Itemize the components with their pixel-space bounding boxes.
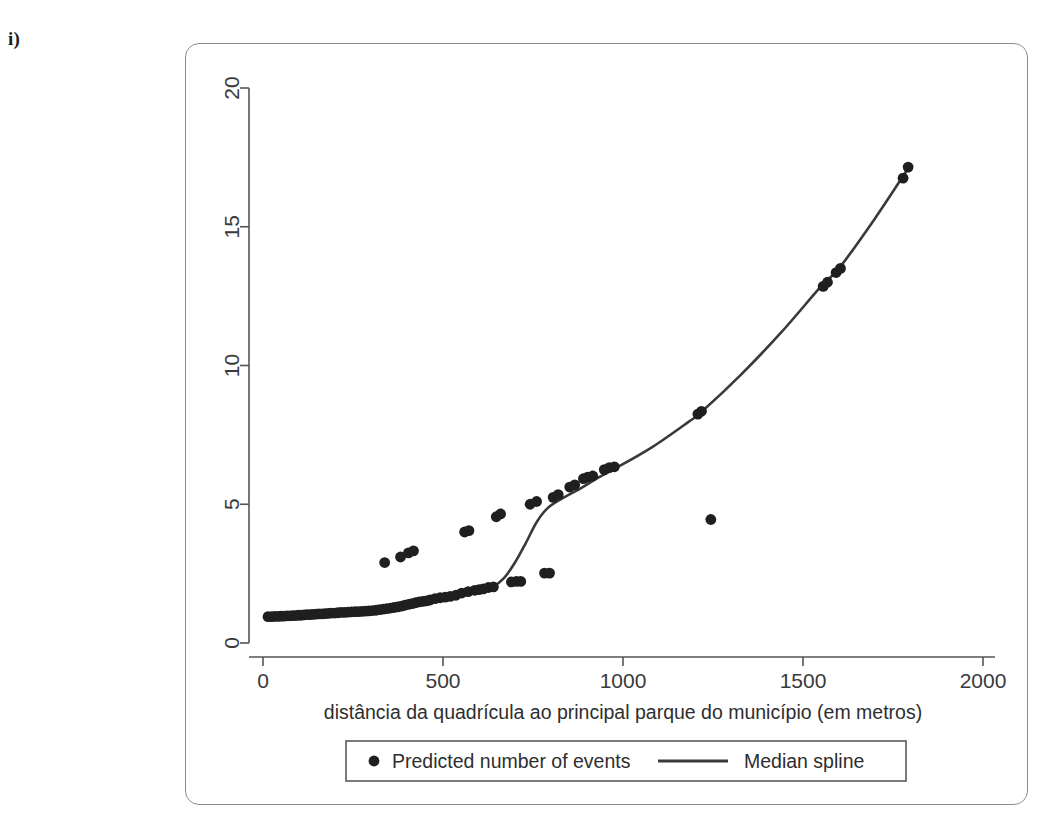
y-axis-tick-label: 0 (220, 637, 243, 649)
data-point (705, 514, 716, 525)
data-point (696, 406, 707, 417)
y-axis-tick-label: 10 (220, 354, 243, 377)
data-point (835, 263, 846, 274)
data-point (515, 576, 526, 587)
data-point (488, 582, 499, 593)
data-point (495, 509, 506, 520)
data-point (898, 173, 909, 184)
data-point (379, 557, 390, 568)
y-axis-tick-label: 20 (220, 76, 243, 99)
y-axis-tick-label: 5 (220, 498, 243, 510)
x-axis-tick-label: 2000 (960, 669, 1007, 692)
data-point (587, 471, 598, 482)
chart-plot: 051015200500100015002000distância da qua… (186, 44, 1029, 806)
legend-dot-icon (369, 756, 380, 767)
y-axis-tick-label: 15 (220, 215, 243, 238)
data-point (464, 525, 475, 536)
data-point (408, 545, 419, 556)
data-point (544, 568, 555, 579)
data-point (609, 461, 620, 472)
panel-label: i) (8, 28, 20, 50)
axis-labels-group: 051015200500100015002000distância da qua… (220, 76, 1007, 723)
median-spline-line (269, 168, 908, 616)
x-axis-tick-label: 1000 (600, 669, 647, 692)
x-axis-title: distância da quadrícula ao principal par… (324, 701, 922, 723)
legend-label-median-spline: Median spline (744, 750, 864, 772)
legend-label-predicted-events: Predicted number of events (392, 750, 631, 772)
x-axis-tick-label: 1500 (780, 669, 827, 692)
data-point (553, 489, 564, 500)
data-point (822, 277, 833, 288)
predicted-events-points (263, 162, 914, 622)
axes-group (240, 88, 995, 666)
data-point (531, 496, 542, 507)
x-axis-tick-label: 0 (257, 669, 269, 692)
median-spline-path (269, 168, 908, 616)
figure-frame: 051015200500100015002000distância da qua… (185, 43, 1028, 805)
chart-legend: Predicted number of eventsMedian spline (346, 741, 906, 781)
data-point (903, 162, 914, 173)
x-axis-tick-label: 500 (425, 669, 460, 692)
